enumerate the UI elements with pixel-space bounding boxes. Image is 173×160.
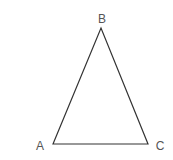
vertex-label-b: B (98, 12, 106, 26)
vertex-label-c: C (156, 139, 165, 153)
vertex-label-a: A (36, 139, 44, 153)
diagram-canvas: A B C (0, 0, 173, 160)
triangle-diagram: A B C (0, 0, 173, 160)
triangle-abc (53, 28, 148, 144)
